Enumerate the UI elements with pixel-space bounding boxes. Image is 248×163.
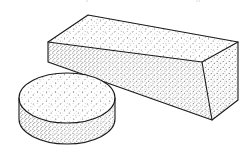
illustration-svg	[0, 0, 248, 163]
cylindrical-disc	[15, 72, 119, 148]
figure-canvas: r p g	[0, 0, 248, 163]
